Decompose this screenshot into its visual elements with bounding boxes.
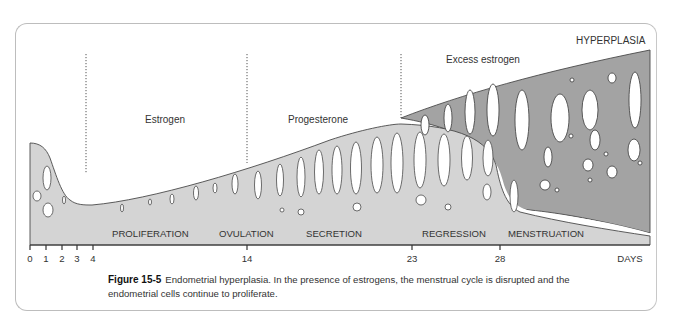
days-axis xyxy=(30,245,650,250)
hyperplasia-label: HYPERPLASIA xyxy=(576,35,646,46)
figure-caption: Figure 15-5Endometrial hyperplasia. In t… xyxy=(108,273,578,300)
axis-unit-days: DAYS xyxy=(617,253,642,264)
phase-label-menstruation: MENSTRUATION xyxy=(508,228,584,239)
phase-label-secretion: SECRETION xyxy=(306,228,362,239)
svg-text:4: 4 xyxy=(90,253,96,264)
svg-text:14: 14 xyxy=(242,253,253,264)
progesterone-label: Progesterone xyxy=(288,114,348,125)
svg-text:28: 28 xyxy=(495,253,506,264)
svg-text:23: 23 xyxy=(407,253,418,264)
caption-text: Endometrial hyperplasia. In the presence… xyxy=(108,274,570,299)
svg-text:1: 1 xyxy=(43,253,48,264)
phase-label-ovulation: OVULATION xyxy=(219,228,274,239)
phase-label-regression: REGRESSION xyxy=(422,228,486,239)
svg-text:2: 2 xyxy=(59,253,64,264)
estrogen-label: Estrogen xyxy=(145,114,185,125)
svg-text:3: 3 xyxy=(74,253,79,264)
phase-label-proliferation: PROLIFERATION xyxy=(112,228,189,239)
figure-number: Figure 15-5 xyxy=(108,274,161,285)
axis-tick-labels: 0 1 2 3 4 14 23 28 xyxy=(27,253,505,264)
svg-text:0: 0 xyxy=(27,253,32,264)
excess-estrogen-label: Excess estrogen xyxy=(446,54,520,65)
